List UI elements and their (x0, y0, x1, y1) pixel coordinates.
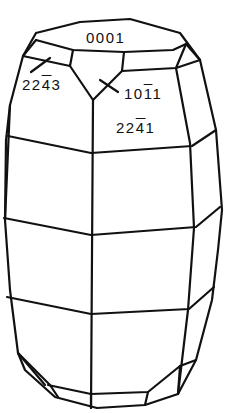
crystal-diagram: 0001 2243 1011 2241 (0, 0, 226, 413)
face-label-pyramid-steep: 2241 (116, 120, 155, 135)
face-label-pyramid-upper-left: 2243 (22, 77, 61, 92)
face-label-pyramid-upper: 1011 (124, 86, 162, 101)
crystal-outline (0, 0, 226, 413)
face-label-basal: 0001 (86, 30, 125, 45)
